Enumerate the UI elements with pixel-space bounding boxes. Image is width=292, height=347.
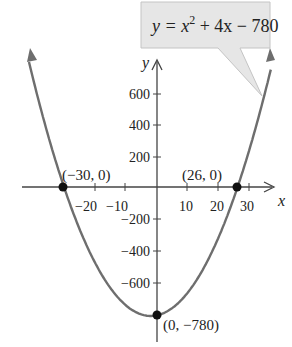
- x-tick-label: 10: [179, 199, 193, 214]
- y-ticks: 600 400 200 −200 −400 −600: [121, 87, 161, 291]
- y-tick-label: 400: [129, 118, 150, 133]
- y-tick-label: 600: [129, 87, 150, 102]
- point-label-right: (26, 0): [182, 167, 222, 184]
- key-points: (−30, 0) (26, 0) (0, −780): [59, 167, 242, 334]
- curve-arrow-left-icon: [27, 48, 37, 62]
- x-tick-label: −20: [75, 199, 97, 214]
- point-label-left: (−30, 0): [62, 167, 110, 184]
- point-label-vertex: (0, −780): [163, 317, 219, 334]
- x-axis-label: x: [277, 192, 285, 209]
- equation-text: y = x2 + 4x − 780: [150, 13, 278, 36]
- y-tick-label: 200: [129, 150, 150, 165]
- x-tick-label: 30: [240, 199, 254, 214]
- x-intercept-left-point: [59, 183, 68, 192]
- y-tick-label: −400: [121, 244, 150, 259]
- equation-callout: y = x2 + 4x − 780: [141, 2, 278, 96]
- x-tick-label: 20: [210, 199, 224, 214]
- y-tick-label: −200: [121, 212, 150, 227]
- x-intercept-right-point: [233, 183, 242, 192]
- parabola-chart: y = x2 + 4x − 780 x y −20 −10 10 20 30 6…: [0, 0, 292, 347]
- y-axis-label: y: [140, 54, 150, 72]
- y-tick-label: −600: [121, 276, 150, 291]
- axes: x y: [22, 54, 285, 342]
- y-intercept-point: [153, 311, 162, 320]
- curve-arrow-right-icon: [266, 48, 275, 62]
